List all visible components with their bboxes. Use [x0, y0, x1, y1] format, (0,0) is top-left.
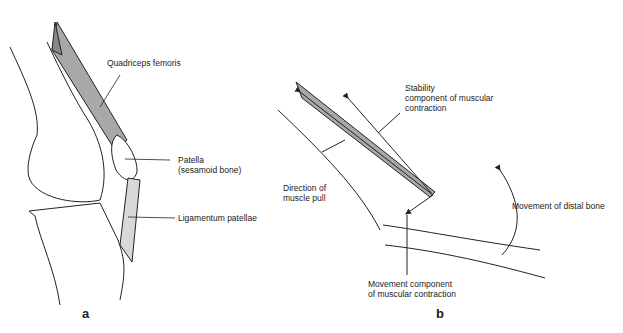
- label-direction-1: Direction of: [283, 183, 326, 193]
- label-movement-distal-bone: Movement of distal bone: [512, 201, 605, 211]
- label-patella: Patella: [178, 155, 204, 165]
- label-movement-component-2: of muscular contraction: [368, 289, 456, 299]
- panel-a-label: a: [82, 306, 89, 321]
- panel-b-label: b: [436, 306, 444, 321]
- label-patella-sesamoid: (sesamoid bone): [178, 165, 241, 175]
- label-ligamentum-patellae: Ligamentum patellae: [178, 213, 257, 223]
- label-movement-component-1: Movement component: [368, 279, 452, 289]
- label-stability-3: contraction: [405, 103, 447, 113]
- diagram-canvas: [0, 0, 623, 333]
- label-quadriceps-femoris: Quadriceps femoris: [107, 58, 181, 68]
- label-direction-2: muscle pull: [283, 193, 326, 203]
- label-stability-1: Stability: [405, 83, 435, 93]
- label-stability-2: component of muscular: [405, 93, 493, 103]
